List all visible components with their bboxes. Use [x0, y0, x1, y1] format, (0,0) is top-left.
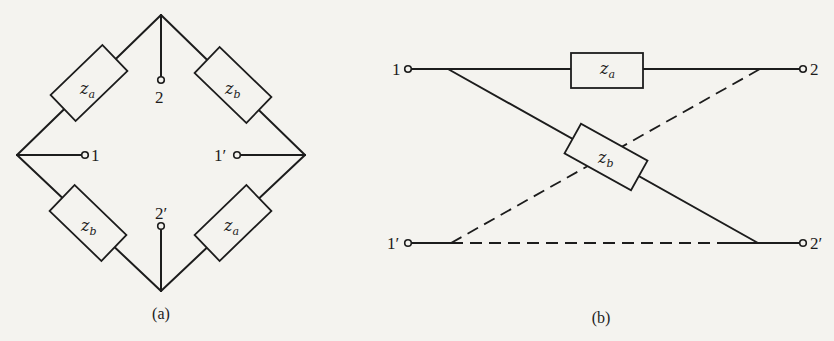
terminal-label-1p-b: 1′	[387, 234, 399, 253]
terminal-1p-b	[405, 240, 412, 247]
figure-a-lattice: za zb zb za 2 2′ 1 1′ (a)	[17, 15, 305, 323]
terminal-label-2: 2	[155, 88, 164, 107]
terminal-1-b	[405, 66, 412, 73]
impedance-za-top-left	[51, 45, 128, 121]
terminal-2p-b	[800, 240, 807, 247]
terminal-label-1-b: 1	[392, 60, 401, 79]
terminal-2-b	[800, 66, 807, 73]
figure-canvas: za zb zb za 2 2′ 1 1′ (a)	[0, 0, 834, 341]
terminal-2	[158, 77, 165, 84]
terminal-label-1p: 1′	[214, 146, 226, 165]
caption-a: (a)	[152, 305, 170, 323]
terminal-1p	[234, 152, 241, 159]
terminal-label-2p: 2′	[155, 204, 167, 223]
terminal-1	[82, 152, 89, 159]
terminal-label-1: 1	[91, 146, 100, 165]
terminal-2p	[158, 223, 165, 230]
figure-b-lattice: za zb 1 2 1′ 2′ (b)	[387, 53, 822, 327]
caption-b: (b)	[592, 309, 611, 327]
terminal-label-2-b: 2	[810, 60, 819, 79]
terminal-label-2p-b: 2′	[810, 234, 822, 253]
